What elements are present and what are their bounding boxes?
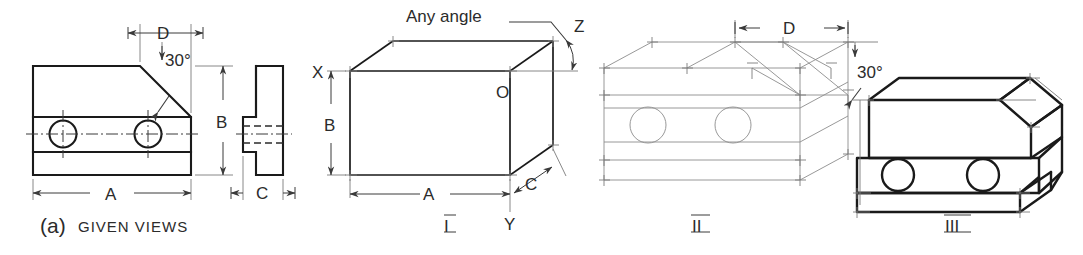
step-one-oblique-box: [345, 36, 578, 181]
step-two-dimension-d-label: D: [783, 19, 795, 38]
svg-text:II: II: [692, 217, 701, 236]
given-views-caption: GIVEN VIEWS: [78, 218, 188, 235]
given-views-dimension-d-label: D: [157, 24, 169, 43]
step-two-numeral: II: [691, 215, 710, 236]
step-one-dimension-a-label: A: [423, 185, 435, 204]
step-two-chamfer-angle-label: 30°: [857, 63, 883, 82]
step-one-dimension-b-label: B: [324, 116, 335, 135]
step-one-corner-y-label: Y: [504, 215, 515, 234]
given-views-dimension-a-label: A: [105, 185, 117, 204]
svg-text:III: III: [945, 217, 959, 236]
given-views-front-view: [26, 66, 198, 175]
step-one-z-label: Z: [574, 17, 584, 36]
step-one-dimension-c-label: C: [525, 175, 537, 194]
given-views-side-view: [236, 66, 292, 175]
given-views-chamfer-angle-label: 30°: [165, 51, 191, 70]
step-one-any-angle-note: Any angle: [406, 7, 482, 26]
given-views-dimension-c-label: C: [256, 184, 268, 203]
step-three-finished-object: [852, 73, 1062, 218]
step-three-numeral: III: [944, 215, 971, 236]
given-views-caption-prefix: (a): [40, 214, 66, 237]
svg-text:I: I: [444, 217, 449, 236]
step-one-numeral: I: [444, 215, 456, 236]
given-views-dimension-b-label: B: [216, 113, 227, 132]
step-one-dimension-c: [514, 149, 566, 193]
step-two-construction-block: [599, 37, 854, 186]
step-one-corner-o-label: O: [496, 83, 509, 102]
technical-drawing-figure: 30° D B A: [0, 0, 1083, 255]
step-one-any-angle-leader: [509, 22, 573, 70]
step-one-corner-x-label: X: [312, 63, 323, 82]
